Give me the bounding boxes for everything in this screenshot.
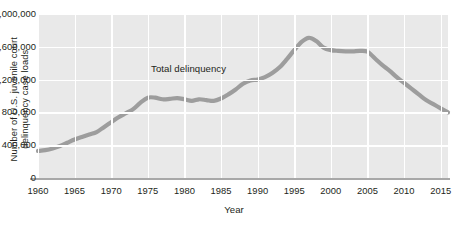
gridline-vertical (148, 14, 149, 178)
gridline-horizontal (38, 145, 448, 146)
series-line-total-delinquency (38, 14, 448, 178)
gridline-horizontal (38, 14, 448, 15)
gridline-vertical (221, 14, 222, 178)
x-tick-label: 1985 (201, 185, 241, 196)
x-tick-label: 2015 (421, 185, 461, 196)
y-tick-label: 2,000,000 (0, 8, 36, 19)
series-annotation-label: Total delinquency (151, 63, 226, 74)
x-tick-label: 1995 (274, 185, 314, 196)
gridline-vertical (367, 14, 368, 178)
gridline-vertical (38, 14, 39, 178)
gridline-vertical (111, 14, 112, 178)
y-tick-label: 800,000 (0, 106, 36, 117)
gridline-vertical (331, 14, 332, 178)
x-axis-label: Year (0, 204, 468, 215)
x-tick-label: 1990 (238, 185, 278, 196)
plot-area (38, 14, 448, 178)
y-axis-tick-labels: 2,000,0001,600,0001,200,000800,000400,00… (0, 0, 36, 237)
gridline-vertical (404, 14, 405, 178)
y-tick-label: 1,600,000 (0, 41, 36, 52)
gridline-vertical (75, 14, 76, 178)
chart-figure: Number of U.S. juvenile court delinquenc… (0, 0, 468, 237)
gridline-horizontal (38, 47, 448, 48)
x-tick-label: 2010 (384, 185, 424, 196)
gridline-horizontal (38, 112, 448, 113)
y-tick-label: 400,000 (0, 139, 36, 150)
x-axis-line (30, 178, 450, 180)
x-axis-tick-labels: 1960196519701975198019851990199520002005… (0, 185, 468, 199)
x-tick-label: 2005 (347, 185, 387, 196)
y-tick-label: 0 (0, 172, 36, 183)
x-tick-label: 1965 (55, 185, 95, 196)
x-tick-label: 1975 (128, 185, 168, 196)
x-tick-label: 1980 (164, 185, 204, 196)
gridline-vertical (184, 14, 185, 178)
gridline-vertical (294, 14, 295, 178)
gridline-vertical (441, 14, 442, 178)
x-tick-label: 1960 (18, 185, 58, 196)
x-tick-label: 1970 (91, 185, 131, 196)
y-tick-label: 1,200,000 (0, 74, 36, 85)
gridline-vertical (258, 14, 259, 178)
gridline-horizontal (38, 80, 448, 81)
x-tick-label: 2000 (311, 185, 351, 196)
